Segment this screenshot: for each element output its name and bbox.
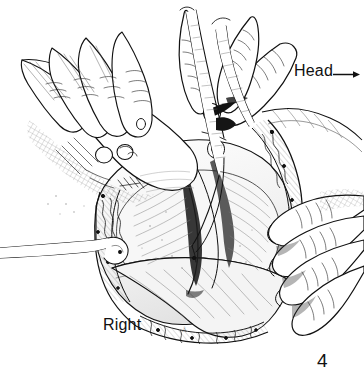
figure-number: 4 <box>317 351 328 370</box>
orientation-label-head: Head <box>294 63 333 79</box>
head-direction-arrow-icon <box>333 70 361 79</box>
surgical-illustration-figure: Head Right Å 4 <box>0 0 364 381</box>
orientation-label-right: Right <box>103 317 141 333</box>
surgical-line-art-illustration <box>0 0 364 381</box>
artist-signature-mark: Å <box>182 326 187 334</box>
